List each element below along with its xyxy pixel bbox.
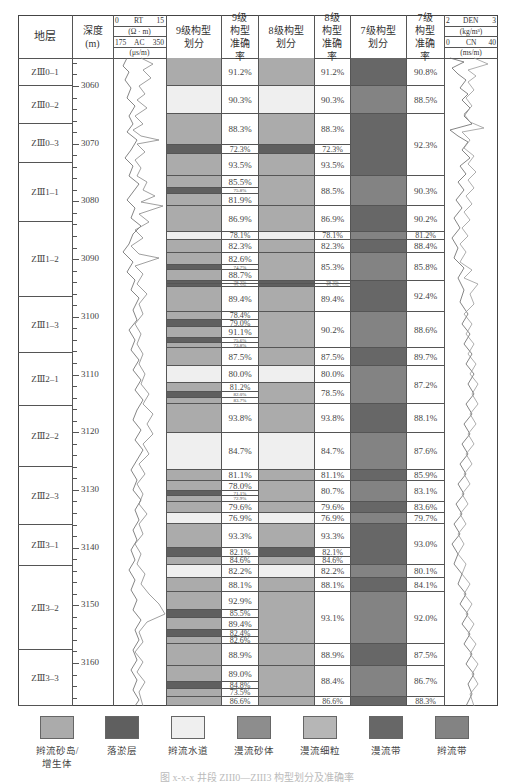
accuracy-value: 88.1% — [407, 404, 444, 433]
architecture-cell-F — [351, 644, 406, 666]
depth-tick — [73, 559, 77, 560]
header-l7-div-text: 7级构型划分 — [358, 24, 398, 50]
architecture-cell-A — [167, 481, 221, 491]
depth-tick — [73, 513, 77, 514]
architecture-cell-A — [259, 383, 314, 404]
architecture-cell-A — [167, 404, 221, 433]
architecture-cell-C — [259, 86, 314, 114]
legend-label: 漫流砂体 — [224, 745, 284, 758]
header-l7-acc-text: 7级构型准确率 — [414, 11, 436, 63]
architecture-cell-A — [167, 666, 221, 682]
depth-tick — [73, 490, 79, 491]
ac-max: 350 — [153, 38, 164, 47]
architecture-cell-A — [167, 312, 221, 320]
accuracy-value: 84.1% — [407, 578, 444, 592]
architecture-cell-A — [167, 697, 221, 706]
depth-label: 3080 — [81, 195, 99, 205]
architecture-cell-B — [167, 145, 221, 154]
depth-tick — [73, 409, 77, 410]
accuracy-value: 89.4% — [315, 287, 350, 312]
stratum-cell: ZⅢ3–3 — [18, 650, 72, 706]
architecture-accuracy-chart: 地层 深度 (m) 0 RT 15 (Ω · m) 175 AC 350 (μs… — [0, 0, 514, 783]
legend-label: 辫流砂岛/ 增生体 — [27, 745, 87, 771]
depth-tick — [73, 444, 77, 445]
stratum-cell: ZⅢ1–1 — [18, 163, 72, 222]
architecture-cell-A — [259, 58, 314, 86]
accuracy-value: 88.1% — [315, 578, 350, 592]
depth-tick — [73, 155, 77, 156]
depth-tick — [73, 109, 77, 110]
accuracy-value: 79.7% — [407, 513, 444, 524]
legend-swatch — [303, 716, 337, 739]
accuracy-value: 79.6% — [315, 502, 350, 513]
accuracy-value: 88.4% — [315, 666, 350, 697]
accuracy-value: 91.1% — [222, 327, 258, 338]
den-max: 3 — [492, 16, 496, 25]
depth-tick — [73, 351, 77, 352]
depth-label: 3140 — [81, 542, 99, 552]
accuracy-value: 82.3% — [222, 240, 258, 253]
architecture-cell-A — [259, 697, 314, 706]
rt-unit: (Ω · m) — [113, 27, 166, 36]
legend-item: 辫流砂岛/ 增生体 — [27, 716, 87, 771]
architecture-cell-F — [351, 240, 406, 253]
rt-label: RT — [134, 16, 143, 25]
architecture-cell-A — [259, 524, 314, 548]
accuracy-value: 91.2% — [222, 58, 258, 86]
depth-tick — [73, 605, 79, 606]
architecture-cell-F — [351, 114, 406, 176]
architecture-cell-G — [351, 366, 406, 404]
architecture-cell-G — [351, 433, 406, 470]
depth-label: 3120 — [81, 426, 99, 436]
depth-tick — [73, 201, 79, 202]
accuracy-value: 79.6% — [222, 502, 258, 513]
accuracy-value: 84.7% — [315, 433, 350, 470]
header-rt-ac: 0 RT 15 (Ω · m) 175 AC 350 (μs/m) — [113, 15, 166, 58]
accuracy-value: 82.6% — [222, 253, 258, 265]
figure-caption: 图 x-x-x 井段 ZIII0—ZIII3 构型划分及准确率 — [0, 769, 514, 783]
ac-unit: (μs/m) — [113, 48, 166, 57]
accuracy-value: 87.2% — [407, 366, 444, 404]
depth-tick — [73, 167, 77, 168]
accuracy-value: 78.4% — [222, 312, 258, 320]
architecture-cell-A — [259, 312, 314, 348]
cn-max: 40 — [489, 38, 497, 47]
depth-tick — [73, 386, 77, 387]
depth-tick — [73, 663, 79, 664]
depth-tick — [73, 571, 77, 572]
accuracy-value: 93.5% — [315, 154, 350, 176]
accuracy-value: 88.3% — [407, 697, 444, 706]
legend-swatch — [369, 716, 403, 739]
accuracy-value: 85.5% — [222, 610, 258, 618]
architecture-cell-A — [259, 176, 314, 206]
accuracy-value: 82.2% — [222, 565, 258, 578]
accuracy-value: 72.3% — [222, 145, 258, 154]
accuracy-value: 86.9% — [222, 206, 258, 232]
accuracy-value: 93.8% — [222, 404, 258, 433]
legend-item: 辫流水道 — [158, 716, 218, 758]
accuracy-value: 88.9% — [315, 644, 350, 666]
architecture-cell-F — [351, 281, 406, 312]
depth-tick — [73, 501, 77, 502]
depth-tick — [73, 432, 79, 433]
accuracy-value: 84.7% — [222, 433, 258, 470]
architecture-cell-A — [167, 253, 221, 265]
depth-label: 3100 — [81, 311, 99, 321]
depth-tick — [73, 398, 77, 399]
architecture-cell-A — [259, 404, 314, 433]
ac-label: AC — [134, 38, 144, 47]
accuracy-value: 84.6% — [222, 557, 258, 565]
accuracy-value: 88.3% — [222, 114, 258, 145]
accuracy-value: 81.9% — [222, 194, 258, 206]
architecture-cell-A — [167, 644, 221, 666]
stratum-cell: ZⅢ2–2 — [18, 406, 72, 467]
accuracy-value: 76.9% — [315, 513, 350, 524]
depth-tick — [73, 213, 77, 214]
stratum-cell: ZⅢ3–2 — [18, 566, 72, 650]
architecture-cell-A — [259, 114, 314, 145]
legend-swatch — [237, 716, 271, 739]
header-depth-unit: (m) — [85, 37, 99, 50]
stratum-cell: ZⅢ2–3 — [18, 467, 72, 525]
architecture-cell-G — [351, 592, 406, 644]
legend-swatch — [435, 716, 469, 739]
